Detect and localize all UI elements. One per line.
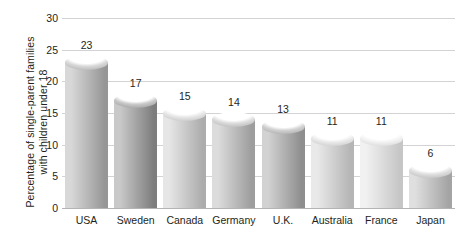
bar-shape bbox=[212, 119, 255, 208]
bar-top-cap bbox=[262, 119, 305, 134]
y-axis-tick-label: 0 bbox=[36, 202, 58, 214]
bar-value-label: 11 bbox=[311, 115, 354, 127]
bar-body bbox=[360, 138, 403, 208]
bar-body bbox=[262, 126, 305, 208]
bar-shape bbox=[163, 113, 206, 208]
bar-shape bbox=[114, 100, 157, 208]
bar-value-label: 11 bbox=[360, 115, 403, 127]
bar-u-k[interactable]: 13 bbox=[262, 126, 305, 208]
y-axis-tick-label: 30 bbox=[36, 12, 58, 24]
y-axis-tick-label: 15 bbox=[36, 107, 58, 119]
x-axis-label: Japan bbox=[406, 214, 455, 226]
bar-body bbox=[212, 119, 255, 208]
bar-body bbox=[311, 138, 354, 208]
bar-value-label: 17 bbox=[114, 77, 157, 89]
bar-shape bbox=[409, 170, 452, 208]
bar-shape bbox=[262, 126, 305, 208]
x-axis-label: Canada bbox=[160, 214, 209, 226]
x-axis-label: Australia bbox=[308, 214, 357, 226]
bar-value-label: 14 bbox=[212, 96, 255, 108]
plot-area: 051015202530 231715141311116 bbox=[62, 18, 455, 208]
bar-japan[interactable]: 6 bbox=[409, 170, 452, 208]
bar-chart: Percentage of single-parent families wit… bbox=[0, 0, 475, 249]
bar-value-label: 13 bbox=[262, 103, 305, 115]
x-axis-label: France bbox=[357, 214, 406, 226]
x-axis-label: Sweden bbox=[111, 214, 160, 226]
bar-usa[interactable]: 23 bbox=[65, 62, 108, 208]
x-axis-label: USA bbox=[62, 214, 111, 226]
bar-germany[interactable]: 14 bbox=[212, 119, 255, 208]
y-axis-tick-label: 10 bbox=[36, 139, 58, 151]
bar-france[interactable]: 11 bbox=[360, 138, 403, 208]
y-axis-title: Percentage of single-parent families wit… bbox=[0, 0, 36, 249]
y-axis-tick-label: 5 bbox=[36, 170, 58, 182]
bar-shape bbox=[360, 138, 403, 208]
x-axis-line bbox=[62, 208, 455, 209]
bar-value-label: 23 bbox=[65, 39, 108, 51]
y-axis-tick-label: 25 bbox=[36, 44, 58, 56]
bar-value-label: 15 bbox=[163, 90, 206, 102]
bar-sweden[interactable]: 17 bbox=[114, 100, 157, 208]
x-axis-label: U.K. bbox=[259, 214, 308, 226]
bar-body bbox=[163, 113, 206, 208]
bar-shape bbox=[311, 138, 354, 208]
bar-body bbox=[65, 62, 108, 208]
bar-value-label: 6 bbox=[409, 147, 452, 159]
bar-canada[interactable]: 15 bbox=[163, 113, 206, 208]
x-axis-label: Germany bbox=[209, 214, 258, 226]
bar-body bbox=[114, 100, 157, 208]
bar-australia[interactable]: 11 bbox=[311, 138, 354, 208]
y-axis-tick-label: 20 bbox=[36, 75, 58, 87]
bar-top-cap bbox=[409, 163, 452, 178]
bars-layer: 231715141311116 bbox=[62, 18, 455, 208]
bar-shape bbox=[65, 62, 108, 208]
